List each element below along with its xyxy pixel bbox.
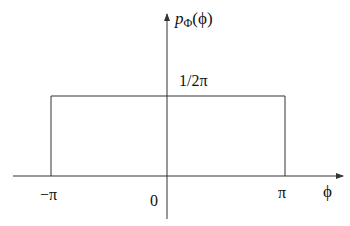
tick-label-zero: 0	[150, 193, 158, 209]
x-axis-label: ϕ	[323, 183, 332, 200]
tick-label-pi: π	[278, 185, 286, 201]
uniform-pdf-rectangle	[51, 96, 285, 176]
y-axis-label: pΦ(ϕ)	[175, 10, 213, 27]
tick-label-neg-pi: −π	[40, 187, 57, 203]
level-label: 1/2π	[179, 73, 208, 89]
